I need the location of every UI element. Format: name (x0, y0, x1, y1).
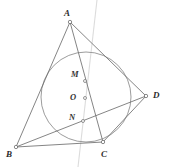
label-point-o: O (70, 93, 76, 102)
point-marker-a (68, 20, 71, 23)
label-point-d: D (153, 91, 160, 100)
geometry-canvas (0, 0, 169, 167)
segment-cd (103, 96, 146, 142)
geometry-figure: A B C D M O N (0, 0, 169, 167)
point-marker-o (84, 97, 87, 100)
point-marker-b (14, 145, 17, 148)
point-marker-d (144, 94, 147, 97)
point-marker-n (82, 120, 85, 123)
segment-bc (16, 142, 103, 147)
segment-ab (16, 22, 70, 147)
segment-ad (70, 22, 146, 96)
label-point-n: N (69, 113, 75, 122)
label-point-m: M (71, 70, 79, 79)
label-point-c: C (101, 150, 107, 159)
label-point-a: A (64, 9, 70, 18)
point-marker-m (84, 80, 87, 83)
label-point-b: B (6, 150, 12, 159)
point-marker-c (101, 140, 104, 143)
